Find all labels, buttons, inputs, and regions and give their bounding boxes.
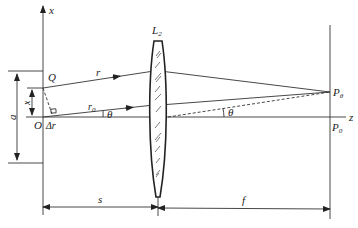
origin-label: O bbox=[34, 119, 42, 131]
theta-right-label: θ bbox=[228, 106, 234, 118]
point-p-theta-label: Pθ bbox=[332, 86, 344, 100]
optics-diagram: x z a x Q O Δr r r0 θ θ bbox=[0, 0, 358, 228]
dimension-x-label: x bbox=[21, 100, 32, 106]
dimension-s-label: s bbox=[98, 193, 102, 205]
point-p0-label: P0 bbox=[331, 121, 343, 135]
ray-r0-incoming bbox=[43, 105, 154, 117]
ray-r-outgoing bbox=[160, 71, 330, 92]
x-axis-label: x bbox=[48, 4, 54, 16]
point-q-label: Q bbox=[48, 71, 56, 83]
delta-r-label: Δr bbox=[45, 120, 56, 131]
ray-r0-arrow bbox=[125, 107, 133, 108]
dimension-f-label: f bbox=[242, 194, 247, 206]
lens-label: L2 bbox=[151, 24, 162, 38]
z-axis-label: z bbox=[348, 111, 354, 123]
ray-r-arrow bbox=[112, 76, 120, 77]
dimension-a-label: a bbox=[6, 114, 18, 120]
theta-right-arc bbox=[223, 109, 224, 118]
ray-r0-outgoing bbox=[160, 92, 330, 105]
chief-ray-dashed bbox=[168, 92, 330, 117]
theta-left-label: θ bbox=[107, 108, 113, 120]
dimension-f bbox=[158, 208, 330, 209]
ray-r-label: r bbox=[96, 66, 101, 78]
